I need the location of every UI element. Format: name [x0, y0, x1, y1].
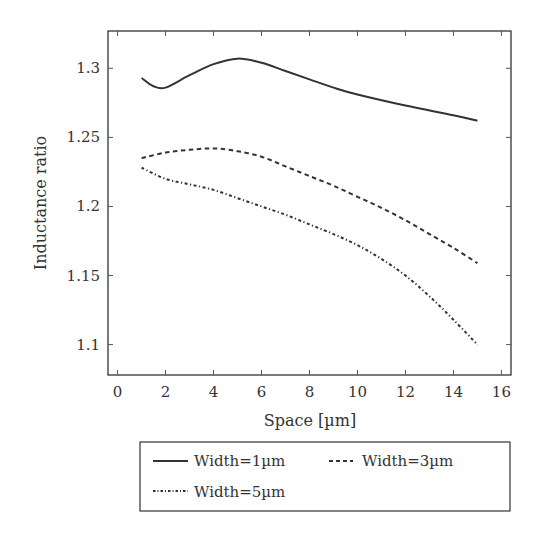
y-tick-label: 1.3 — [76, 59, 100, 77]
legend-item-width-5: Width=5µm — [194, 483, 285, 501]
x-tick-label: 10 — [348, 383, 367, 401]
x-axis-label: Space [µm] — [264, 411, 356, 430]
series-line-1 — [142, 59, 478, 121]
y-tick-label: 1.1 — [76, 336, 100, 354]
y-tick-label: 1.2 — [76, 197, 100, 215]
y-tick-label: 1.15 — [67, 267, 100, 285]
plot-frame — [108, 31, 511, 375]
x-tick-label: 0 — [113, 383, 123, 401]
x-tick-label: 14 — [444, 383, 463, 401]
legend-item-width-3: Width=3µm — [362, 452, 453, 470]
x-tick-label: 2 — [161, 383, 171, 401]
x-tick-label: 6 — [257, 383, 267, 401]
x-tick-label: 12 — [396, 383, 415, 401]
legend: Width=1µm Width=3µm Width=5µm — [140, 442, 510, 511]
axes-layer: 02468101214161.11.151.21.251.3 — [67, 31, 511, 401]
series-line-3 — [142, 168, 478, 345]
x-tick-label: 16 — [492, 383, 511, 401]
x-tick-label: 4 — [209, 383, 219, 401]
y-tick-label: 1.25 — [67, 128, 100, 146]
x-tick-label: 8 — [305, 383, 315, 401]
inductance-ratio-chart: 02468101214161.11.151.21.251.3 Space [µm… — [0, 0, 539, 536]
legend-item-width-1: Width=1µm — [194, 452, 285, 470]
series-layer — [142, 59, 478, 345]
y-axis-label: Inductance ratio — [31, 136, 50, 270]
series-line-2 — [142, 148, 478, 263]
